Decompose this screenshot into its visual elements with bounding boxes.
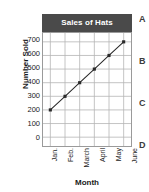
data-point bbox=[49, 108, 52, 111]
y-tick-label: 0 bbox=[18, 134, 40, 142]
chart-title-banner: Sales of Hats bbox=[42, 14, 132, 32]
data-point bbox=[93, 68, 96, 71]
x-tick-label: Jan. bbox=[50, 148, 59, 176]
y-axis-tick-labels: 700 600 500 400 300 200 100 0 bbox=[14, 0, 40, 192]
answer-choice-a[interactable]: A bbox=[139, 14, 149, 24]
y-tick-label: 100 bbox=[18, 120, 40, 128]
y-tick-label: 700 bbox=[18, 36, 40, 44]
answer-choice-d[interactable]: D bbox=[139, 140, 149, 150]
chart-title: Sales of Hats bbox=[61, 19, 113, 27]
data-point bbox=[122, 40, 125, 43]
data-point bbox=[107, 54, 110, 57]
horizontal-gridlines bbox=[43, 42, 131, 137]
answer-choice-b[interactable]: B bbox=[139, 56, 149, 66]
line-chart-figure: Sales of Hats Number Sold 700 600 500 40… bbox=[0, 0, 149, 192]
y-tick-label: 300 bbox=[18, 92, 40, 100]
x-tick-label: April bbox=[98, 148, 107, 176]
answer-choice-column: A B C D bbox=[139, 0, 149, 192]
y-tick-label: 600 bbox=[18, 50, 40, 58]
x-tick-label: March bbox=[82, 148, 91, 176]
data-line bbox=[50, 42, 123, 110]
x-tick-label: May bbox=[114, 148, 123, 176]
answer-choice-c[interactable]: C bbox=[139, 98, 149, 108]
x-axis-tick-labels: Jan. Feb. March April May June bbox=[42, 148, 132, 176]
x-tick-label: June bbox=[130, 148, 139, 176]
y-tick-label: 500 bbox=[18, 64, 40, 72]
plot-canvas bbox=[43, 33, 131, 146]
y-tick-label: 200 bbox=[18, 106, 40, 114]
plot-area bbox=[42, 32, 132, 147]
data-point bbox=[78, 81, 81, 84]
vertical-gridlines bbox=[50, 33, 123, 146]
data-point bbox=[63, 95, 66, 98]
y-tick-label: 400 bbox=[18, 78, 40, 86]
x-axis-title: Month bbox=[42, 178, 132, 188]
x-tick-label: Feb. bbox=[66, 148, 75, 176]
